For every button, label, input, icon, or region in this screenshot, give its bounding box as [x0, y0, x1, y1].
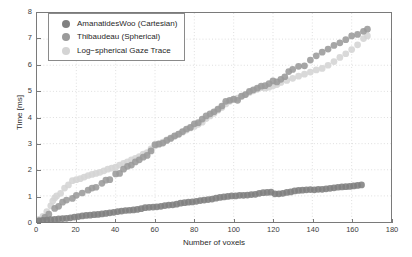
data-series — [37, 33, 371, 222]
chart-legend: AmanatidesWoo (Cartesian) Thibaudeau (Sp… — [48, 13, 185, 61]
x-tick-label: 20 — [71, 226, 79, 234]
y-tick-label: 1 — [4, 193, 32, 201]
legend-item: AmanatidesWoo (Cartesian) — [54, 18, 177, 29]
x-tick-mark — [313, 219, 314, 223]
y-tick-mark — [37, 65, 41, 66]
y-axis-label: Time [ms] — [15, 58, 24, 168]
x-tick-mark — [76, 219, 77, 223]
legend-item: Log−spherical Gaze Trace — [54, 45, 177, 56]
y-tick-mark — [37, 170, 41, 171]
y-tick-label: 0 — [4, 219, 32, 227]
legend-marker-icon — [62, 20, 70, 28]
y-tick-mark — [37, 197, 41, 198]
y-tick-mark — [37, 38, 41, 39]
x-tick-label: 40 — [111, 226, 119, 234]
x-tick-mark — [155, 219, 156, 223]
legend-item-label: Log−spherical Gaze Trace — [77, 47, 171, 55]
y-tick-label: 2 — [4, 167, 32, 175]
y-tick-label: 7 — [4, 35, 32, 43]
x-tick-mark — [115, 219, 116, 223]
x-tick-mark — [194, 219, 195, 223]
x-tick-label: 60 — [150, 226, 158, 234]
legend-item-label: Thibaudeau (Spherical) — [77, 33, 160, 41]
x-tick-mark — [234, 219, 235, 223]
x-tick-label: 100 — [228, 226, 241, 234]
legend-item: Thibaudeau (Spherical) — [54, 32, 177, 43]
y-tick-mark — [37, 118, 41, 119]
x-tick-label: 180 — [386, 226, 399, 234]
figure-canvas: 020406080100120140160180 012345678 Numbe… — [0, 0, 412, 257]
x-tick-mark — [352, 219, 353, 223]
y-tick-mark — [37, 12, 41, 13]
x-tick-label: 140 — [307, 226, 320, 234]
legend-item-label: AmanatidesWoo (Cartesian) — [77, 20, 177, 28]
y-tick-mark — [37, 91, 41, 92]
y-tick-mark — [37, 144, 41, 145]
legend-marker-icon — [62, 33, 70, 41]
y-tick-label: 8 — [4, 8, 32, 16]
x-tick-label: 0 — [34, 226, 38, 234]
y-tick-mark — [37, 223, 41, 224]
x-axis-label: Number of voxels — [36, 238, 392, 247]
legend-marker-icon — [62, 47, 70, 55]
x-tick-mark — [273, 219, 274, 223]
x-tick-mark — [392, 219, 393, 223]
x-tick-label: 120 — [267, 226, 280, 234]
x-tick-label: 160 — [346, 226, 359, 234]
x-tick-label: 80 — [190, 226, 198, 234]
